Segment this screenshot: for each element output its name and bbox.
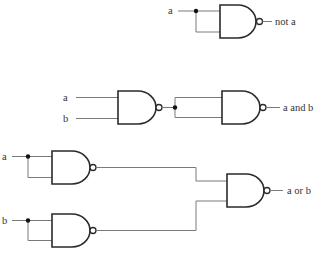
or-circuit: a b a or b — [2, 151, 311, 247]
input-label-b: b — [2, 215, 7, 226]
inversion-bubble-icon — [264, 188, 270, 194]
input-wire-b — [12, 221, 52, 241]
nand-gate-icon — [227, 174, 264, 207]
intermediate-wire-lower — [96, 201, 227, 231]
output-label-a-or-b: a or b — [287, 185, 311, 196]
input-label-a: a — [168, 5, 173, 16]
intermediate-wire — [162, 98, 222, 118]
inversion-bubble-icon — [156, 105, 162, 111]
nand-gate-icon — [220, 5, 256, 38]
inversion-bubble-icon — [90, 165, 96, 171]
nand-gate-icon — [52, 214, 90, 247]
junction-dot — [26, 218, 30, 222]
inversion-bubble-icon — [257, 19, 263, 25]
intermediate-wire-upper — [96, 168, 227, 182]
input-label-a: a — [2, 151, 7, 162]
nand-logic-diagram: a not a a b a and b a b — [0, 0, 316, 254]
input-wire-a — [12, 157, 52, 178]
not-circuit: a not a — [168, 5, 296, 38]
output-label-a-and-b: a and b — [283, 102, 313, 113]
inversion-bubble-icon — [90, 228, 96, 234]
input-label-b: b — [63, 113, 68, 124]
input-label-a: a — [63, 92, 68, 103]
nand-gate-icon — [52, 151, 90, 184]
junction-dot — [194, 9, 198, 13]
inversion-bubble-icon — [260, 105, 266, 111]
junction-dot — [173, 105, 177, 109]
input-wire-a — [178, 11, 220, 32]
and-circuit: a b a and b — [63, 91, 313, 124]
junction-dot — [26, 154, 30, 158]
nand-gate-icon — [118, 91, 156, 124]
output-label-not-a: not a — [275, 16, 296, 27]
nand-gate-icon — [222, 91, 260, 124]
